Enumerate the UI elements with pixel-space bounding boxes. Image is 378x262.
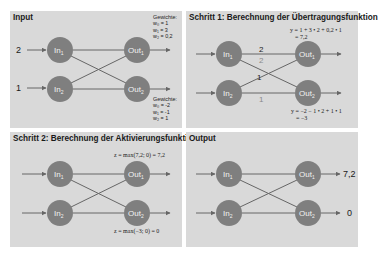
node-out1: Out1 [124, 37, 150, 63]
formula-out2: y = −2 − 1 • 2 + 1 • 1 = −3 [291, 108, 342, 122]
node-in2: In2 [216, 80, 242, 106]
node-in1: In1 [216, 41, 242, 67]
node-in1: In1 [47, 37, 73, 63]
edge-label-in1-out2: 2 [259, 56, 264, 65]
output-value-1: 7,2 [343, 169, 356, 179]
output-value-2: 0 [347, 208, 352, 218]
node-out2: Out2 [124, 200, 150, 226]
node-in1: In1 [47, 161, 73, 187]
panel-step2: Schritt 2: Berechnung der Aktivierungsfu… [10, 132, 182, 247]
panel-input: Input 2 1 In1 In2 Out1 [10, 11, 182, 128]
formula-out2: z = max(−3; 0) = 0 [114, 228, 159, 235]
node-out2: Out2 [295, 200, 321, 226]
formula-out1: z = max(7,2; 0) = 7,2 [114, 152, 165, 159]
edge-label-in2-out1: 1 [257, 73, 262, 82]
node-out1: Out1 [124, 161, 150, 187]
input-value-2: 1 [16, 83, 21, 93]
node-out1: Out1 [295, 41, 321, 67]
panel-output: Output 7,2 0 In1 In2 Out1 Out [186, 132, 358, 247]
edge-label-in2-out2: 1 [259, 95, 264, 104]
node-out2: Out2 [124, 76, 150, 102]
weights-out1: Gewichte: w₀ = 1 w₁ = 3 w₂ = 0,2 [153, 14, 177, 40]
node-in2: In2 [47, 76, 73, 102]
network-diagram: 7,2 0 In1 In2 Out1 Out2 [186, 132, 358, 247]
node-in2: In2 [47, 200, 73, 226]
node-in1: In1 [216, 161, 242, 187]
input-value-1: 2 [16, 45, 21, 55]
node-in2: In2 [216, 200, 242, 226]
weights-out2: Gewichte: w₀ = -2 w₁ = -1 w₂ = 1 [153, 96, 177, 122]
node-out1: Out1 [295, 161, 321, 187]
panel-step1: Schritt 1: Berechnung der Übertragungsfu… [186, 11, 358, 128]
edge-label-in1-out1: 2 [259, 45, 264, 54]
formula-out1: y = 1 + 3 • 2 + 0,2 • 1 = 7,2 [290, 27, 342, 41]
node-out2: Out2 [295, 80, 321, 106]
